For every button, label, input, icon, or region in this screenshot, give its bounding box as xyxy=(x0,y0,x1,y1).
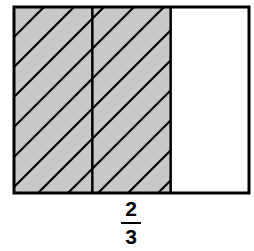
fraction-numerator: 2 xyxy=(117,197,145,221)
fraction-label: 2 3 xyxy=(117,197,145,249)
hatch-line xyxy=(0,7,14,193)
unshaded-part xyxy=(171,7,249,193)
fraction-bar xyxy=(121,222,141,224)
fraction-denominator: 3 xyxy=(117,225,145,249)
shaded-part xyxy=(14,7,92,193)
